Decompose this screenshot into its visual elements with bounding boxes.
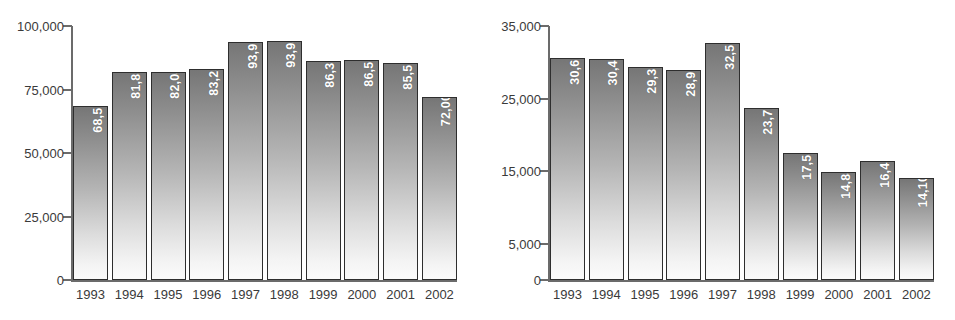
bar-value-label: 23,728: [761, 108, 775, 135]
bar[interactable]: 17,532: [783, 153, 818, 280]
y-axis-tick-label: 35,000: [479, 20, 541, 33]
x-axis-label: 1996: [666, 287, 701, 302]
bar[interactable]: 29,314: [628, 67, 663, 280]
bar-value-label: 86,528: [362, 60, 376, 87]
bar-value-label: 82,041: [168, 72, 182, 99]
bar[interactable]: 86,316: [306, 61, 341, 280]
x-axis-label: 1995: [151, 287, 186, 302]
x-axis-label: 1996: [189, 287, 224, 302]
bar-value-label: 81,833: [129, 72, 143, 99]
x-axis-label: 2000: [821, 287, 856, 302]
y-axis-tick-label: 15,000: [479, 165, 541, 178]
x-axis-label: 1994: [589, 287, 624, 302]
bar-slot: 16,465: [860, 26, 895, 280]
x-axis-label: 1999: [783, 287, 818, 302]
bar-chart-right: 35,00025,00015,0005,0000 30,65030,41129,…: [477, 0, 955, 320]
bar-slot: 81,833: [112, 26, 147, 280]
bar-value-label: 16,465: [878, 161, 892, 188]
y-axis-tick-label: 25,000: [2, 211, 64, 224]
y-axis-tick: [540, 25, 549, 27]
bar-value-label: 14,100*: [916, 178, 930, 207]
bar[interactable]: 23,728: [744, 108, 779, 280]
bar[interactable]: 28,983: [666, 70, 701, 280]
bar[interactable]: 68,587: [73, 106, 108, 280]
bar-slot: 93,901: [228, 26, 263, 280]
bar-slot: 30,650: [550, 26, 585, 280]
y-axis-tick: [540, 98, 549, 100]
bar-group-left: 68,58781,83382,04183,23393,90193,93286,3…: [73, 26, 457, 280]
bar-slot: 14,100*: [899, 26, 934, 280]
bar-slot: 72,000*: [422, 26, 457, 280]
x-axis-label: 1997: [228, 287, 263, 302]
bar-value-label: 32,596: [723, 43, 737, 70]
bar[interactable]: 86,528: [344, 60, 379, 280]
bar-value-label: 86,316: [323, 61, 337, 88]
bar-value-label: 14,844: [839, 172, 853, 199]
bar[interactable]: 30,411: [589, 59, 624, 280]
bar-slot: 30,411: [589, 26, 624, 280]
y-axis-tick: [63, 279, 72, 281]
bar-value-label: 30,411: [606, 59, 620, 85]
bar-value-label: 72,000*: [439, 97, 453, 126]
bar-slot: 85,581: [383, 26, 418, 280]
bar[interactable]: 14,844: [821, 172, 856, 280]
bar[interactable]: 82,041: [151, 72, 186, 280]
x-axis-label: 2001: [383, 287, 418, 302]
y-axis-tick: [63, 89, 72, 91]
bar[interactable]: 81,833: [112, 72, 147, 280]
bar-chart-left: 100,00075,00050,00025,0000 68,58781,8338…: [0, 0, 478, 320]
y-axis-tick-label: 25,000: [479, 93, 541, 106]
bar-value-label: 85,581: [401, 63, 415, 90]
x-axis-line-right: [548, 280, 934, 282]
bar-value-label: 17,532: [800, 153, 814, 180]
bar[interactable]: 32,596: [705, 43, 740, 280]
x-axis-label-group-right: 1993199419951996199719981999200020012002: [550, 287, 934, 302]
y-axis-tick-label: 0: [2, 274, 64, 287]
x-axis-label: 1994: [112, 287, 147, 302]
bar-slot: 23,728: [744, 26, 779, 280]
bar-slot: 17,532: [783, 26, 818, 280]
bar[interactable]: 72,000*: [422, 97, 457, 280]
x-axis-label: 2002: [899, 287, 934, 302]
x-axis-label: 2001: [860, 287, 895, 302]
x-axis-label: 1995: [628, 287, 663, 302]
y-axis-tick: [63, 152, 72, 154]
bar[interactable]: 85,581: [383, 63, 418, 280]
y-axis-tick: [540, 279, 549, 281]
x-axis-label: 1998: [267, 287, 302, 302]
dual-bar-chart-figure: 100,00075,00050,00025,0000 68,58781,8338…: [0, 0, 955, 320]
bar[interactable]: 83,233: [189, 69, 224, 280]
bar-slot: 82,041: [151, 26, 186, 280]
bar-value-label: 68,587: [91, 106, 105, 133]
x-axis-line-left: [71, 280, 457, 282]
x-axis-label: 1997: [705, 287, 740, 302]
bar[interactable]: 30,650: [550, 58, 585, 280]
bar-slot: 28,983: [666, 26, 701, 280]
y-axis-tick-label: 0: [479, 274, 541, 287]
x-axis-label: 1999: [306, 287, 341, 302]
y-axis-tick: [63, 216, 72, 218]
bar-slot: 29,314: [628, 26, 663, 280]
bar[interactable]: 14,100*: [899, 178, 934, 280]
bar-value-label: 83,233: [207, 69, 221, 96]
bar-value-label: 93,932: [284, 41, 298, 68]
y-axis-tick: [63, 25, 72, 27]
bar-slot: 68,587: [73, 26, 108, 280]
x-axis-label: 1993: [550, 287, 585, 302]
bar-slot: 86,316: [306, 26, 341, 280]
bar[interactable]: 93,932: [267, 41, 302, 280]
bar-group-right: 30,65030,41129,31428,98332,59623,72817,5…: [550, 26, 934, 280]
bar-slot: 32,596: [705, 26, 740, 280]
bar[interactable]: 16,465: [860, 161, 895, 280]
y-axis-tick: [540, 243, 549, 245]
y-axis-tick-label: 5,000: [479, 238, 541, 251]
bar-value-label: 93,901: [246, 42, 260, 69]
x-axis-label-group-left: 1993199419951996199719981999200020012002: [73, 287, 457, 302]
y-axis-tick: [540, 170, 549, 172]
x-axis-label: 2002: [422, 287, 457, 302]
bar-value-label: 28,983: [684, 70, 698, 97]
bar-slot: 86,528: [344, 26, 379, 280]
bar-slot: 93,932: [267, 26, 302, 280]
y-axis-tick-label: 50,000: [2, 147, 64, 160]
bar[interactable]: 93,901: [228, 42, 263, 281]
